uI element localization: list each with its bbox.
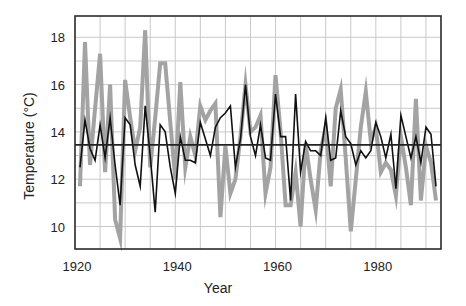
y-tick-label: 14: [51, 125, 65, 140]
plot-frame: [75, 16, 441, 249]
x-axis-ticks: 1920194019601980: [63, 259, 393, 274]
x-tick-label: 1960: [263, 259, 292, 274]
y-axis-label: Temperature (°C): [21, 92, 37, 200]
x-tick-label: 1980: [363, 259, 392, 274]
x-tick-label: 1940: [163, 259, 192, 274]
y-tick-label: 18: [51, 30, 65, 45]
y-tick-label: 16: [51, 78, 65, 93]
x-tick-label: 1920: [63, 259, 92, 274]
y-tick-label: 12: [51, 172, 65, 187]
y-tick-label: 10: [51, 220, 65, 235]
temperature-line-chart: 1012141618 1920194019601980 Year Tempera…: [0, 0, 466, 306]
x-axis-label: Year: [204, 280, 233, 296]
y-axis-ticks: 1012141618: [51, 30, 65, 234]
black-series-line: [80, 85, 436, 213]
gridlines: [75, 16, 441, 249]
